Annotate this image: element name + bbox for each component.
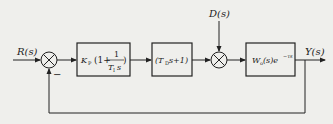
svg-text:(T: (T — [155, 56, 164, 65]
svg-text:K: K — [80, 56, 88, 65]
plant-block: W o (s)e −τs — [246, 43, 295, 76]
input-label: R(s) — [16, 46, 38, 57]
pid-controller-block: K P (1+ 1 T I s ) — [77, 43, 130, 76]
svg-text:−τs: −τs — [283, 53, 293, 59]
svg-text:(s)e: (s)e — [263, 56, 278, 65]
output-label: Y(s) — [305, 46, 325, 57]
summing-junction-2 — [211, 52, 227, 68]
svg-text:): ) — [123, 55, 127, 65]
svg-text:s: s — [117, 63, 121, 72]
svg-text:P: P — [88, 60, 92, 66]
svg-text:1: 1 — [114, 50, 119, 59]
feedback-path — [49, 60, 305, 113]
feedback-sign: − — [53, 69, 61, 80]
summing-junction-1 — [41, 52, 57, 68]
block-diagram: R(s) − K P (1+ 1 T I s ) (T D s+1) D(s) — [0, 0, 333, 124]
svg-text:I: I — [113, 67, 115, 73]
disturbance-label: D(s) — [208, 8, 230, 19]
derivative-block: (T D s+1) — [152, 43, 192, 76]
svg-text:s+1): s+1) — [169, 56, 188, 65]
